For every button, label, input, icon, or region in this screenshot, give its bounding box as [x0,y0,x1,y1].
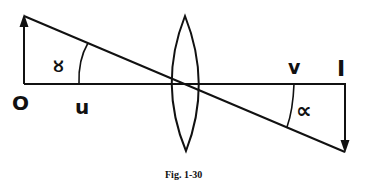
lens-diagram: ∝ ∝ O u v I Fig. 1-30 [0,0,367,183]
object-point-label: O [12,91,29,115]
angle-image-label: ∝ [296,98,312,123]
image-point-label: I [337,56,345,81]
angle-object-label: ∝ [45,58,70,74]
image-distance-label: v [288,56,301,78]
object-distance-label: u [75,95,89,119]
figure-caption: Fig. 1-30 [165,169,202,180]
object-arrowhead-icon [20,14,29,27]
object-angle-arc [79,43,88,84]
image-angle-arc [287,84,294,127]
